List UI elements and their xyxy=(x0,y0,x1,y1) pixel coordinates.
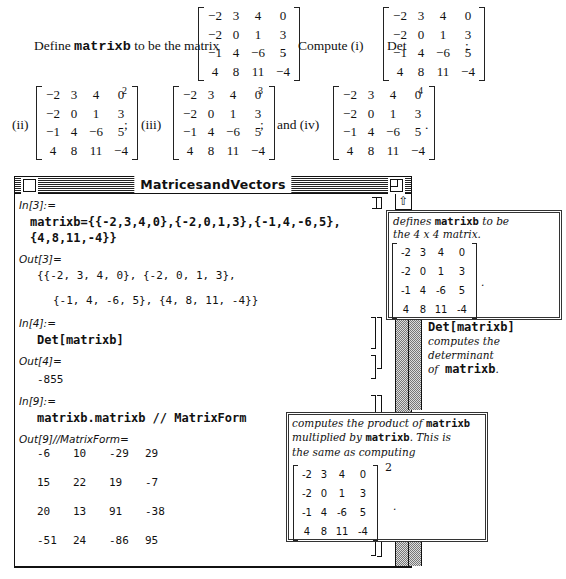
scrollbar-track[interactable] xyxy=(408,320,422,410)
semicolon: ; xyxy=(465,38,469,54)
in3-code-line1[interactable]: matrixb={{-2,3,4,0},{-2,0,1,3},{-1,4,-6,… xyxy=(30,215,341,229)
matrix-cell: −1 xyxy=(179,123,201,142)
callout-product-matrix-cell: -6 xyxy=(332,503,352,522)
matrix-cell: 4 xyxy=(221,86,245,105)
variable-name: matrixb xyxy=(74,39,131,54)
matrix-cell: 4 xyxy=(361,123,381,142)
callout-product-matrix-cell: -1 xyxy=(298,503,316,522)
cell-bracket[interactable] xyxy=(371,317,376,349)
text: defines xyxy=(393,215,431,227)
problem-intro: Define matrixb to be the matrix xyxy=(34,38,219,54)
cell-group-bracket[interactable] xyxy=(377,197,382,209)
matrix-cell: 8 xyxy=(411,63,431,82)
callout-define-text: defines matrixb to be xyxy=(393,214,509,228)
callout-define-matrix-cell: 3 xyxy=(451,262,473,281)
callout-product-matrix-cell: 4 xyxy=(332,465,352,484)
in9-code[interactable]: matrixb.matrixb // MatrixForm xyxy=(37,411,247,425)
callout-product-matrix-cell: -2 xyxy=(298,484,316,503)
matrix-cell: 4 xyxy=(201,123,221,142)
title-bar[interactable]: MatricesandVectors xyxy=(15,177,411,194)
matrix-cell: 4 xyxy=(339,142,361,161)
in9-label: In[9]:= xyxy=(19,395,56,407)
matrix-cell: 0 xyxy=(270,7,296,26)
matrix-cell: −6 xyxy=(431,44,455,63)
matrix-cell: −2 xyxy=(179,105,201,124)
zoom-box-icon[interactable] xyxy=(390,179,403,192)
callout-define-matrix-cell: -2 xyxy=(397,262,415,281)
matrix-cell: −6 xyxy=(221,123,245,142)
matrix-cell: −6 xyxy=(246,44,270,63)
semicolon: ; xyxy=(124,117,128,133)
in3-label: In[3]:= xyxy=(19,199,56,211)
text: computes the product of xyxy=(292,417,423,429)
matrix-cell: 4 xyxy=(179,142,201,161)
callout-product-line3: the same as computing xyxy=(292,445,415,459)
matrix-cell: −6 xyxy=(84,123,108,142)
text: to be xyxy=(482,215,509,227)
out9-matrix-cell: -29 xyxy=(109,439,145,468)
callout-product-matrix-cell: 0 xyxy=(352,465,374,484)
matrix-cell: 11 xyxy=(431,63,455,82)
scrollbar-track-bottom[interactable] xyxy=(408,542,422,566)
callout-product-line2: multiplied by matrixb. This is xyxy=(292,430,451,444)
out9-matrix-cell: 95 xyxy=(145,526,181,555)
callout-define-matrix-cell: 5 xyxy=(451,281,473,300)
out9-matrix-cell: 19 xyxy=(109,468,145,497)
callout-product-matrix: -2340-2013-14-654811-4 xyxy=(293,465,378,541)
matrix-cell: 11 xyxy=(381,142,405,161)
matrix-cell: 3 xyxy=(108,105,134,124)
matrix-cell: 0 xyxy=(108,86,134,105)
matrix-cell: 0 xyxy=(201,105,221,124)
matrix-cell: 0 xyxy=(226,26,246,45)
matrix-cell: 4 xyxy=(42,142,64,161)
out4-label: Out[4]= xyxy=(19,355,62,367)
matrix-det: −2340−2013−14−654811−4 xyxy=(383,7,485,81)
in4-code[interactable]: Det[matrixb] xyxy=(37,333,124,347)
out9-matrix-cell: 24 xyxy=(73,526,109,555)
callout-product-matrix-cell: 8 xyxy=(316,522,332,541)
matrix-cell: 3 xyxy=(201,86,221,105)
matrix-cell: 0 xyxy=(64,105,84,124)
cell-group-bracket[interactable] xyxy=(377,317,382,369)
out3-label: Out[3]= xyxy=(19,253,62,265)
period: . xyxy=(393,499,396,513)
matrix-cell: 8 xyxy=(361,142,381,161)
code: matrixb xyxy=(445,362,496,376)
exponent-4: 4 xyxy=(418,85,423,96)
exponent-3: 3 xyxy=(258,85,263,96)
out9-matrix-cell: -6 xyxy=(37,439,73,468)
matrix-cell: 11 xyxy=(84,142,108,161)
matrix-cell: −4 xyxy=(245,142,271,161)
scroll-up-arrow-icon[interactable]: ⇧ xyxy=(396,194,411,210)
cell-bracket[interactable] xyxy=(371,355,376,379)
callout-product-matrix-cell: 11 xyxy=(332,522,352,541)
matrix-cell: −4 xyxy=(108,142,134,161)
close-box-icon[interactable] xyxy=(23,179,36,192)
matrix-cell: 8 xyxy=(64,142,84,161)
matrix-cell: 4 xyxy=(389,63,411,82)
in3-code-line2[interactable]: {4,8,11,-4}} xyxy=(30,231,117,245)
callout-define-matrix: -2340-2013-14-654811-4 xyxy=(392,243,477,319)
callout-product-matrix-cell: -2 xyxy=(298,465,316,484)
code: matrixb xyxy=(365,431,409,443)
text: . This is xyxy=(410,431,451,443)
matrix-cell: 8 xyxy=(226,63,246,82)
matrix-cell: −2 xyxy=(42,86,64,105)
callout-define-matrix-cell: -1 xyxy=(397,281,415,300)
callout-define-text2: the 4 x 4 matrix. xyxy=(393,227,481,241)
matrix-cell: −4 xyxy=(270,63,296,82)
out9-matrix-cell: -38 xyxy=(145,497,181,526)
text: computes the determinant xyxy=(428,334,566,362)
out4-value: -855 xyxy=(37,373,64,386)
matrix-cell: −1 xyxy=(339,123,361,142)
matrix-cell: 4 xyxy=(381,86,405,105)
matrix-cell: 1 xyxy=(221,105,245,124)
callout-define-matrix-cell: 0 xyxy=(451,243,473,262)
matrix-cell: 1 xyxy=(381,105,405,124)
matrix-cell: −4 xyxy=(405,142,431,161)
callout-product-matrix-cell: -4 xyxy=(352,522,374,541)
out3-line1: {{-2, 3, 4, 0}, {-2, 0, 1, 3}, xyxy=(37,269,236,282)
period: . xyxy=(283,44,286,60)
matrix-cell: −1 xyxy=(204,44,226,63)
out9-matrix-cell: -7 xyxy=(145,468,181,497)
